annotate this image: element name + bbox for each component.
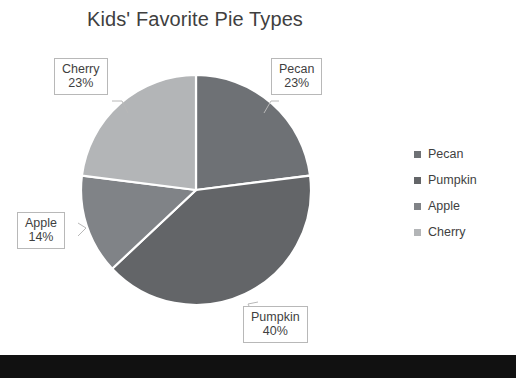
- legend-item-pecan[interactable]: Pecan: [414, 141, 510, 167]
- legend-swatch-icon: [414, 177, 421, 184]
- data-label-apple-value: 14%: [25, 230, 57, 244]
- legend-item-label: Cherry: [428, 225, 466, 239]
- legend-item-label: Pecan: [428, 147, 463, 161]
- data-label-pumpkin-name: Pumpkin: [251, 310, 300, 324]
- pie-chart[interactable]: [66, 60, 326, 320]
- chart-legend: PecanPumpkinAppleCherry: [414, 141, 510, 245]
- data-label-cherry-value: 23%: [62, 76, 100, 90]
- legend-swatch-icon: [414, 229, 421, 236]
- data-label-pumpkin[interactable]: Pumpkin 40%: [243, 306, 308, 343]
- data-label-apple-name: Apple: [25, 216, 57, 230]
- data-label-pecan[interactable]: Pecan 23%: [271, 58, 322, 95]
- legend-item-cherry[interactable]: Cherry: [414, 219, 510, 245]
- legend-item-pumpkin[interactable]: Pumpkin: [414, 167, 510, 193]
- data-label-apple[interactable]: Apple 14%: [17, 212, 65, 249]
- legend-item-label: Apple: [428, 199, 460, 213]
- data-label-cherry[interactable]: Cherry 23%: [54, 58, 108, 95]
- page-title: Kids' Favorite Pie Types: [0, 8, 390, 31]
- slide-canvas: Kids' Favorite Pie Types Cherry 23% Peca…: [0, 0, 516, 378]
- data-label-pumpkin-value: 40%: [251, 324, 300, 338]
- bottom-bar: [0, 355, 516, 378]
- legend-swatch-icon: [414, 151, 421, 158]
- legend-item-label: Pumpkin: [428, 173, 477, 187]
- data-label-pecan-value: 23%: [279, 76, 314, 90]
- pie-slice-group: [81, 75, 311, 305]
- data-label-pecan-name: Pecan: [279, 62, 314, 76]
- data-label-cherry-name: Cherry: [62, 62, 100, 76]
- legend-swatch-icon: [414, 203, 421, 210]
- legend-item-apple[interactable]: Apple: [414, 193, 510, 219]
- pie-chart-svg: [66, 60, 326, 320]
